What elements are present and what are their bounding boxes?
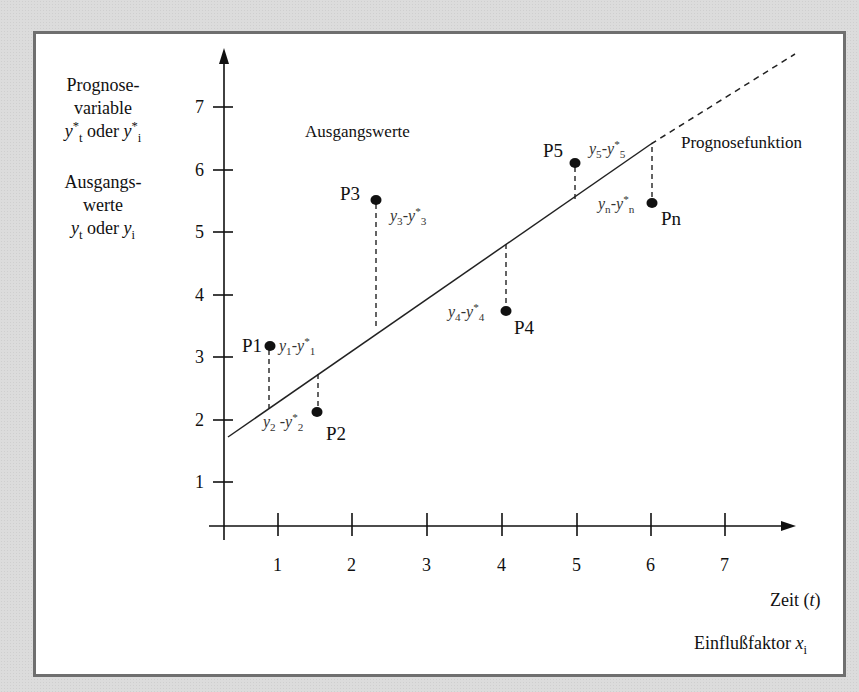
residual-label-3: y3-y*3 <box>390 208 426 224</box>
point-p1 <box>265 341 276 351</box>
prognose-line <box>228 144 651 437</box>
x-tick-6: 6 <box>646 556 655 574</box>
annotation-prognosefunktion: Prognosefunktion <box>681 134 802 151</box>
point-p4 <box>501 306 512 316</box>
y-title-symbols: y*t oder y*i <box>48 120 158 143</box>
label-pn: Pn <box>661 209 681 228</box>
y-tick-6: 6 <box>195 161 204 179</box>
label-p4: P4 <box>514 318 534 337</box>
point-p2 <box>312 407 323 417</box>
y-axis <box>213 60 233 540</box>
y-title-line-1: Prognose- <box>48 74 158 97</box>
residual-label-1: y1-y*1 <box>279 338 315 354</box>
point-p5 <box>570 158 581 168</box>
y-subtitle-symbols: yt oder yi <box>48 217 158 240</box>
y-axis-title: Prognose- variable y*t oder y*i <box>48 74 158 143</box>
y-tick-2: 2 <box>195 411 204 429</box>
residual-label-5: y5-y*5 <box>589 141 625 157</box>
y-tick-3: 3 <box>195 348 204 366</box>
x-axis-label-time: Zeit (t) <box>770 591 821 609</box>
prognose-line-extension <box>651 54 795 144</box>
x-axis-arrow-icon <box>781 521 796 531</box>
point-pn <box>647 198 658 208</box>
y-subtitle-line-2: werte <box>48 194 158 217</box>
x-tick-2: 2 <box>347 556 356 574</box>
y-subtitle-line-1: Ausgangs- <box>48 171 158 194</box>
x-tick-4: 4 <box>497 556 506 574</box>
x-tick-7: 7 <box>720 556 729 574</box>
label-p2: P2 <box>326 424 346 443</box>
y-tick-7: 7 <box>195 98 204 116</box>
point-p3 <box>371 195 382 205</box>
y-title-line-2: variable <box>48 97 158 120</box>
label-p1: P1 <box>242 336 262 355</box>
x-tick-3: 3 <box>422 556 431 574</box>
annotation-ausgangswerte: Ausgangswerte <box>305 123 410 140</box>
x-tick-1: 1 <box>273 556 282 574</box>
y-axis-subtitle: Ausgangs- werte yt oder yi <box>48 171 158 240</box>
x-tick-5: 5 <box>572 556 581 574</box>
residual-label-n: yn-y*n <box>598 196 634 212</box>
y-tick-4: 4 <box>195 286 204 304</box>
y-axis-arrow-icon <box>219 48 229 64</box>
y-tick-5: 5 <box>195 223 204 241</box>
residual-label-4: y4-y*4 <box>448 304 484 320</box>
x-axis-label-factor: Einflußfaktor xi <box>694 634 807 652</box>
label-p3: P3 <box>340 184 360 203</box>
residual-label-2: y2 -y*2 <box>263 414 303 430</box>
x-axis <box>209 513 788 536</box>
label-p5: P5 <box>543 141 563 160</box>
y-tick-1: 1 <box>195 473 204 491</box>
